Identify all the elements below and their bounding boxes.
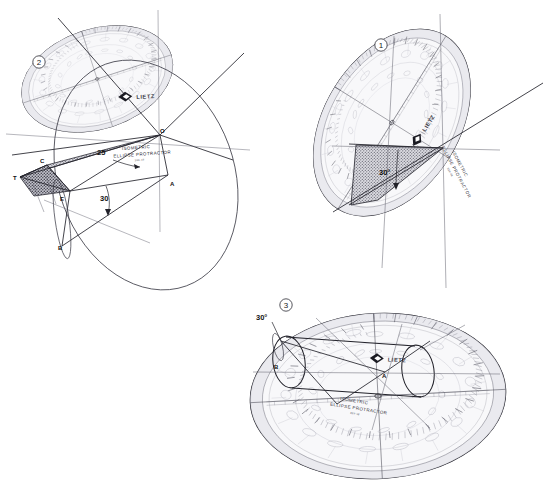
figure-2-point-c: C bbox=[40, 158, 45, 164]
figure-2-angle-30-label: 30 bbox=[100, 194, 108, 203]
brand-label: LIETZ bbox=[388, 357, 407, 364]
figure-1-angle-label: 30° bbox=[379, 168, 390, 177]
figure-3-number-badge: 3 bbox=[280, 299, 292, 311]
illustration-canvas: 25 30 O A B C E T LIETZ ISOMETRIC ELLIPS… bbox=[0, 0, 552, 490]
figure-2-point-e: E bbox=[60, 196, 64, 202]
figure-3-point-b: B bbox=[274, 364, 279, 370]
figure-1-number-badge: 1 bbox=[375, 39, 387, 51]
figure-2-point-t: T bbox=[13, 175, 17, 181]
figure-2-angle-25-label: 25 bbox=[97, 148, 105, 157]
figure-3-point-a: A bbox=[382, 373, 387, 379]
instrument-catalog-code: 33X-48 bbox=[135, 157, 145, 162]
figure-2-point-a: A bbox=[170, 181, 175, 187]
figure-2-point-o: O bbox=[160, 128, 165, 134]
figure-2-number: 2 bbox=[37, 58, 42, 67]
brand-label: LIETZ bbox=[136, 93, 155, 100]
illustration-svg: 25 30 O A B C E T LIETZ ISOMETRIC ELLIPS… bbox=[0, 0, 552, 490]
figure-3-number: 3 bbox=[284, 301, 289, 310]
figure-2-number-badge: 2 bbox=[33, 56, 45, 68]
figure-3-angle-label: 30° bbox=[256, 313, 267, 322]
figure-2-point-b: B bbox=[58, 245, 63, 251]
figure-1-number: 1 bbox=[379, 41, 384, 50]
